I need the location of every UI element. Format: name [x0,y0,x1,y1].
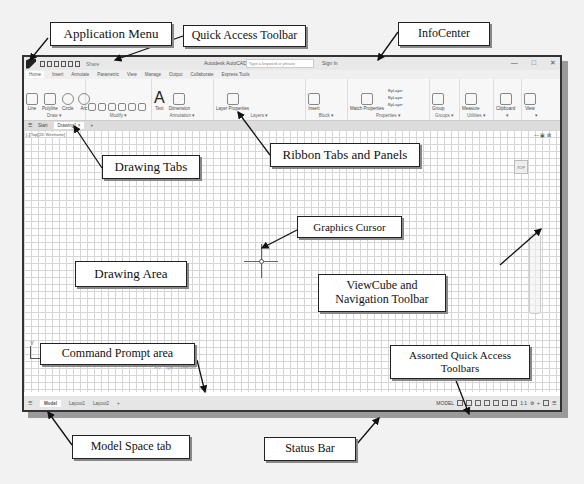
snap-icon[interactable] [466,400,472,406]
draw-panel-title[interactable]: Draw ▾ [26,113,83,118]
tab-manage[interactable]: Manage [145,72,161,77]
group-icon [432,93,444,105]
block-panel: Insert Block ▾ [306,79,348,120]
sign-in-button[interactable]: Sign In [322,60,338,66]
command-line-close-icon[interactable]: ✕ ⚲ [154,365,161,370]
layout-menu-icon[interactable]: ☰ [28,401,32,406]
tab-parametric[interactable]: Parametric [97,72,119,77]
layer-properties-icon [227,93,239,105]
polyline-tool[interactable]: Polyline [42,93,58,111]
layers-panel: Layer Properties Layers ▾ [214,79,306,120]
polar-icon[interactable] [484,400,490,406]
plot-icon[interactable] [68,61,73,67]
workspace-gear-icon[interactable]: ⚙ [530,400,534,406]
view-panel-title[interactable]: ▾ [524,113,548,118]
tab-express-tools[interactable]: Express Tools [222,72,250,77]
annotation-panel-title[interactable]: Annotation ▾ [154,113,211,118]
callout-drawing-area: Drawing Area [75,261,187,287]
viewport-controls[interactable]: [-][Top][2D Wireframe] [26,132,65,137]
block-panel-title[interactable]: Block ▾ [308,113,345,118]
new-tab-button[interactable]: + [90,123,93,128]
draw-panel: Line Polyline Circle Arc Draw ▾ [24,79,86,120]
text-icon: A [154,91,165,105]
close-button[interactable]: ✕ [550,59,556,67]
utilities-panel-title[interactable]: Utilities ▾ [462,113,491,118]
trim-icon[interactable] [108,103,116,111]
osnap-icon[interactable] [493,400,499,406]
measure-tool[interactable]: Measure [462,93,480,111]
rotate-icon[interactable] [98,103,106,111]
dimension-tool[interactable]: Dimension [169,93,190,111]
groups-panel-title[interactable]: Groups ▾ [432,113,457,118]
tab-view[interactable]: View [127,72,137,77]
annotation-scale[interactable]: 1:1 [520,400,527,406]
circle-tool[interactable]: Circle [62,93,74,111]
properties-panel-title[interactable]: Properties ▾ [350,113,427,118]
customization-menu-icon[interactable]: ☰ [552,400,556,406]
drawing-tabs: ☰ Start Drawing1 × + [24,121,560,130]
tab-home[interactable]: Home [26,71,44,78]
navigation-toolbar[interactable] [529,234,541,314]
tab-layout1[interactable]: Layout1 [69,401,85,406]
tab-insert[interactable]: Insert [52,72,63,77]
erase-icon[interactable] [118,103,126,111]
file-tabs-menu-icon[interactable]: ☰ [28,123,32,128]
layer-properties-tool[interactable]: Layer Properties [216,93,249,111]
save-icon[interactable] [54,61,59,67]
clipboard-panel-title[interactable]: ▾ [496,113,519,118]
tab-layout2[interactable]: Layout2 [93,401,109,406]
viewport-window-controls[interactable]: — ▣ ⊠ [534,132,551,138]
insert-tool[interactable]: Insert [308,93,320,111]
insert-icon [308,93,320,105]
match-properties-tool[interactable]: Match Properties [350,93,384,111]
clipboard-tool[interactable]: Clipboard [496,93,515,111]
line-tool[interactable]: Line [26,93,38,111]
model-space-toggle[interactable]: MODEL [436,400,454,406]
group-tool[interactable]: Group [432,93,445,111]
callout-graphics-cursor: Graphics Cursor [297,216,402,238]
infocenter-search-input[interactable]: Type a keyword or phrase [246,59,314,68]
linetype-dropdown[interactable]: ByLayer [388,95,403,100]
minimize-button[interactable]: — [511,59,518,67]
tab-drawing1[interactable]: Drawing1 × [54,122,85,129]
mirror-icon[interactable] [138,103,146,111]
command-placeholder: Type a command [165,365,196,370]
copy-icon[interactable] [128,103,136,111]
lineweight-dropdown[interactable]: ByLayer [388,102,403,107]
circle-icon [62,93,74,105]
color-dropdown[interactable]: ByLayer [388,88,403,93]
layers-panel-title[interactable]: Layers ▾ [216,113,303,118]
status-bar: MODEL 1:1 ⚙ + ☰ [436,400,556,406]
text-tool[interactable]: AText [154,91,165,111]
application-menu-button[interactable] [26,59,36,69]
grid-icon[interactable] [457,400,463,406]
selection-cycling-icon[interactable] [511,400,517,406]
annotation-monitor-icon[interactable]: + [537,400,540,406]
callout-ribbon-tabs-panels: Ribbon Tabs and Panels [270,143,420,167]
maximize-button[interactable]: □ [532,59,536,67]
undo-icon[interactable] [75,61,80,67]
tab-output[interactable]: Output [169,72,183,77]
ortho-icon[interactable] [475,400,481,406]
units-icon[interactable] [543,400,549,406]
view-icon [524,93,536,105]
title-bar: Share Autodesk AutoCAD 2024 Drawing1.dwg… [24,57,560,70]
tab-start[interactable]: Start [38,123,48,128]
modify-panel-title[interactable]: Modify ▾ [88,113,149,118]
lineweight-icon[interactable] [502,400,508,406]
share-button[interactable]: Share [86,61,99,67]
move-icon[interactable] [88,103,96,111]
tab-model[interactable]: Model [40,400,61,407]
open-icon[interactable] [47,61,52,67]
callout-application-menu: Application Menu [50,22,172,46]
view-tool[interactable]: View [524,93,536,111]
tab-annotate[interactable]: Annotate [71,72,89,77]
tab-collaborate[interactable]: Collaborate [191,72,214,77]
save-as-icon[interactable] [61,61,66,67]
callout-model-space-tab: Model Space tab [72,435,190,459]
viewcube[interactable]: TOP [514,160,528,174]
new-icon[interactable] [40,61,45,67]
view-panel: View ▾ [522,79,550,120]
close-tab-icon[interactable]: × [78,123,81,128]
new-layout-button[interactable]: + [117,401,120,406]
